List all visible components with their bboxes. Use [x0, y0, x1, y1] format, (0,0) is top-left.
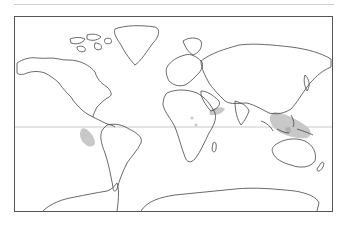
arctic-archipelago — [70, 34, 112, 52]
antarctica — [43, 183, 319, 211]
scandinavia — [183, 38, 202, 55]
india — [235, 101, 249, 125]
europe — [166, 54, 202, 85]
shaded-spot-1 — [191, 117, 194, 120]
africa — [163, 90, 216, 162]
map-svg — [15, 17, 332, 211]
australia — [272, 139, 315, 167]
central-america — [93, 117, 115, 127]
shaded-spot-2 — [195, 124, 198, 127]
new-zealand — [317, 162, 324, 171]
japan — [304, 75, 309, 91]
north-america — [17, 58, 111, 117]
shaded-region-eastern-pacific — [80, 128, 95, 146]
madagascar — [212, 142, 216, 152]
top-divider — [14, 4, 334, 5]
arabian-peninsula — [201, 91, 220, 111]
south-america — [101, 124, 142, 191]
greenland — [114, 26, 158, 65]
world-map — [14, 16, 333, 212]
asia — [201, 44, 331, 114]
shaded-region-indo-pacific — [270, 112, 311, 138]
